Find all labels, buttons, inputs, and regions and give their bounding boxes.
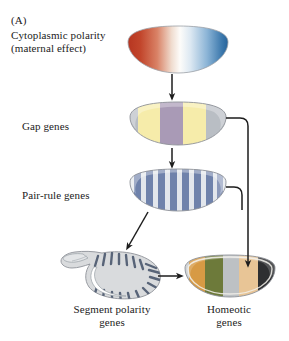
gap-gene-domains bbox=[128, 101, 228, 147]
pair-rule-stripe bbox=[158, 168, 165, 212]
arrow-pair-to-homeotic bbox=[226, 187, 242, 210]
label-cytoplasmic-polarity: Cytoplasmic polarity bbox=[11, 29, 106, 42]
homeotic-band-gray bbox=[223, 254, 239, 298]
arrow-pair-to-segment-polarity bbox=[128, 212, 148, 247]
label-segment-polarity-line2: genes bbox=[53, 316, 171, 329]
label-segment-polarity-genes: Segment polarity genes bbox=[53, 303, 171, 329]
arrow-gap-to-homeotic bbox=[226, 118, 248, 264]
larva-segment-polarity bbox=[58, 249, 166, 301]
label-segment-polarity-line1: Segment polarity bbox=[53, 303, 171, 316]
label-homeotic-line1: Homeotic bbox=[186, 303, 272, 316]
gap-band-central-mauve bbox=[160, 101, 183, 147]
label-gap-genes: Gap genes bbox=[22, 120, 69, 133]
embryo-cytoplasmic-polarity bbox=[126, 25, 230, 75]
pair-rule-stripe bbox=[194, 168, 201, 212]
label-homeotic-genes: Homeotic genes bbox=[186, 303, 272, 329]
label-maternal-effect: (maternal effect) bbox=[11, 42, 86, 55]
pair-rule-stripes bbox=[128, 168, 228, 212]
embryo-pair-rule-genes bbox=[128, 168, 228, 212]
homeotic-band-olive bbox=[205, 254, 223, 298]
label-pair-rule-genes: Pair-rule genes bbox=[22, 189, 90, 202]
segment-stripe bbox=[111, 253, 112, 264]
segment-stripe bbox=[120, 293, 121, 302]
homeotic-domains bbox=[183, 254, 277, 298]
embryo-gradient-fill bbox=[126, 25, 230, 75]
embryo-gap-genes bbox=[128, 101, 228, 147]
pair-rule-stripe bbox=[170, 168, 177, 212]
panel-letter: (A) bbox=[11, 14, 27, 27]
label-homeotic-line2: genes bbox=[186, 316, 272, 329]
segment-stripe bbox=[126, 255, 127, 265]
pair-rule-stripe bbox=[182, 168, 189, 212]
figure-panel-a: (A) Cytoplasmic polarity (maternal effec… bbox=[0, 0, 289, 341]
embryo-homeotic-genes bbox=[183, 254, 277, 298]
